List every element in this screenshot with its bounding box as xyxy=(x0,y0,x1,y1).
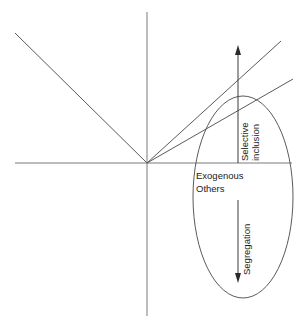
upper-left-ray xyxy=(15,33,147,163)
selective-inclusion-label-line2: inclusion xyxy=(250,124,261,161)
diagram-canvas: Exogenous Others Selective inclusion Seg… xyxy=(0,0,305,325)
exogenous-others-label-line1: Exogenous xyxy=(196,170,244,181)
upper-right-shallow-ray xyxy=(147,79,293,163)
exogenous-others-label-line2: Others xyxy=(196,183,225,194)
segregation-label: Segregation xyxy=(241,224,252,275)
coordinate-diagram: Exogenous Others Selective inclusion Seg… xyxy=(0,0,305,325)
selective-inclusion-arrow-head xyxy=(235,45,241,55)
selective-inclusion-label-line1: Selective xyxy=(239,122,250,161)
